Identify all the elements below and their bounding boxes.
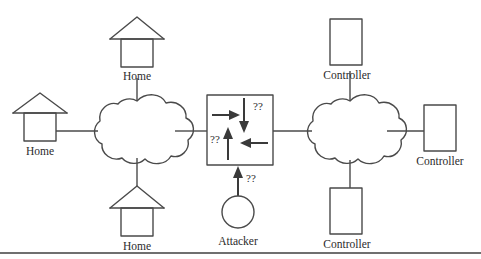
home-bottom-label: Home (123, 240, 151, 252)
question-label-attacker: ?? (246, 172, 256, 184)
node-home-top: Home (110, 17, 164, 82)
home-left-label: Home (26, 145, 54, 157)
controller-right-box-icon (424, 105, 456, 151)
arrow-head-in-east (240, 138, 251, 148)
controller-top-label: Controller (323, 69, 370, 81)
home-top-body-icon (121, 39, 153, 67)
controller-bottom-box-icon (330, 188, 362, 234)
flow-arrow-in-south (223, 127, 233, 160)
node-attacker: ?? Attacker (218, 166, 258, 247)
cloud-right-icon (308, 95, 407, 164)
arrow-head-in-south (223, 127, 233, 139)
node-controller-right: Controller (416, 105, 463, 167)
arrow-head-attacker (233, 166, 243, 178)
attacker-circle-icon (222, 196, 254, 228)
attacker-label: Attacker (218, 235, 258, 247)
network-attack-diagram: Home Home Home (0, 0, 481, 259)
flow-arrow-attacker-to-box (233, 166, 243, 196)
controller-bottom-label: Controller (323, 238, 370, 250)
arrow-head-in-west (229, 110, 240, 120)
node-controller-bottom: Controller (323, 188, 370, 250)
question-label-top-right: ?? (253, 100, 263, 112)
flow-arrow-in-west (212, 110, 240, 120)
home-bottom-body-icon (121, 208, 153, 236)
flow-arrow-in-north (239, 98, 249, 133)
home-top-label: Home (123, 70, 151, 82)
node-center-router-box: ?? ?? (207, 95, 273, 165)
diagram-canvas: Home Home Home (0, 0, 481, 259)
node-controller-top: Controller (323, 19, 370, 81)
home-left-roof-icon (13, 93, 67, 113)
flow-arrow-in-east (240, 138, 268, 148)
controller-top-box-icon (330, 19, 362, 65)
node-cloud-left (95, 95, 194, 164)
home-top-roof-icon (110, 17, 164, 39)
node-cloud-right (308, 95, 407, 164)
question-label-mid-left: ?? (210, 133, 220, 145)
home-left-body-icon (24, 113, 56, 141)
node-home-bottom: Home (110, 186, 164, 252)
home-bottom-roof-icon (110, 186, 164, 208)
connection-lines (56, 71, 424, 188)
cloud-left-icon (95, 95, 194, 164)
center-router-box-icon (207, 95, 273, 165)
node-home-left: Home (13, 93, 67, 157)
arrow-head-in-north (239, 121, 249, 133)
controller-right-label: Controller (416, 155, 463, 167)
